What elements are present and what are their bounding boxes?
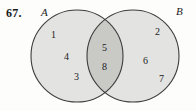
element-a-only-1: 1 [51,30,56,40]
element-b-only-2: 6 [143,56,148,66]
element-a-only-2: 4 [64,52,69,62]
venn-diagram-graphic [0,0,196,111]
set-a-label: A [41,7,48,18]
exercise-number: 67. [6,7,22,19]
venn-diagram-figure: 67. A B 1 4 3 5 8 2 6 7 [0,0,196,111]
set-b-label: B [176,6,183,17]
element-a-only-3: 3 [74,72,79,82]
element-intersection-1: 5 [102,43,107,53]
element-intersection-2: 8 [102,62,107,72]
element-b-only-1: 2 [155,27,160,37]
element-b-only-3: 7 [159,74,164,84]
